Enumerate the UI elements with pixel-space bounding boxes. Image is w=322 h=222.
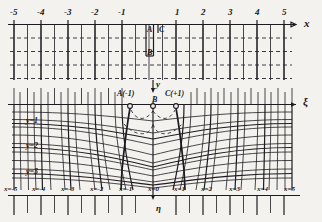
- x-tick-label-pos3: 3: [228, 8, 233, 17]
- x-tick-label-pos1: 1: [175, 8, 180, 17]
- level-label-xneg2: x=-2: [90, 186, 103, 193]
- level-label-xneg4: x=-4: [32, 186, 45, 193]
- bottom-ruler: [8, 196, 300, 216]
- x-tick-label-neg2: -2: [91, 8, 99, 17]
- level-label-x2: x=2: [201, 186, 212, 193]
- x-tick-label-neg1: -1: [118, 8, 126, 17]
- branch-point-C-marker: [174, 104, 179, 109]
- lower-constant-y-curves: [12, 112, 292, 188]
- conformal-mapping-figure: .ink { stroke:#1d1b20; fill:none; } .thi…: [0, 0, 322, 222]
- level-label-y2: y=2: [26, 142, 38, 150]
- point-label-B-upper: B: [147, 49, 152, 57]
- y-axis-label-upper: y: [156, 80, 160, 89]
- lower-plane-group: [8, 88, 300, 215]
- level-label-x3: x=3: [229, 186, 240, 193]
- point-label-A-upper: A: [147, 26, 152, 34]
- x-tick-label-neg5: -5: [10, 8, 18, 17]
- x-tick-label-pos2: 2: [201, 8, 206, 17]
- level-label-x0: x=0: [148, 186, 159, 193]
- level-label-y3: y=3: [26, 168, 38, 176]
- level-label-x4: x=4: [257, 186, 268, 193]
- x-axis-label: x: [304, 18, 310, 29]
- level-label-xneg5: x=-5: [4, 186, 17, 193]
- branch-point-label-B: B: [152, 96, 157, 104]
- branch-point-A-marker: [128, 104, 133, 109]
- y-axis-arrow-upper: [151, 80, 155, 93]
- xi-axis-label: ξ: [303, 96, 308, 107]
- branch-point-label-C: C(+1): [165, 90, 184, 98]
- y-axis-arrowhead: [151, 88, 155, 93]
- upper-horizontal-dashed-lines: [10, 38, 292, 79]
- branch-point-B-marker: [151, 104, 156, 109]
- eta-axis-label: η: [156, 204, 161, 213]
- level-label-x1: x=1: [174, 186, 185, 193]
- level-label-x5: x=5: [284, 186, 295, 193]
- x-tick-label-pos5: 5: [282, 8, 287, 17]
- level-label-y1: y=1: [26, 117, 38, 125]
- branch-point-label-A: A(-1): [117, 90, 134, 98]
- x-tick-label-pos4: 4: [255, 8, 260, 17]
- x-tick-label-neg4: -4: [37, 8, 45, 17]
- x-tick-label-neg3: -3: [64, 8, 72, 17]
- level-label-xneg3: x=-3: [61, 186, 74, 193]
- point-label-C-upper: C: [159, 26, 164, 34]
- level-label-xneg1: x=-1: [119, 186, 132, 193]
